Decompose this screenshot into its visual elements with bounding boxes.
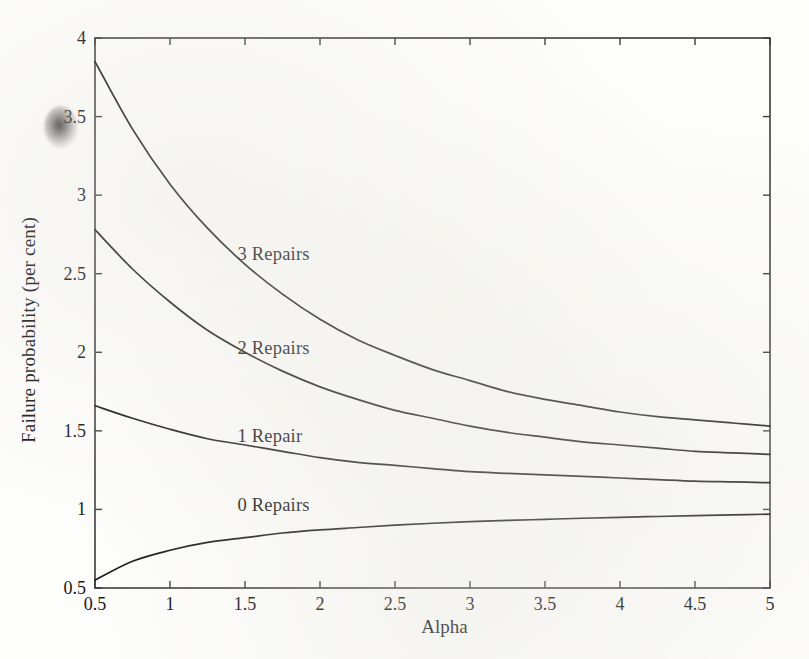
- axes-frame: [95, 38, 770, 588]
- curve-0-repairs: [95, 514, 770, 580]
- x-tick-label: 2: [316, 594, 325, 615]
- x-tick-label: 2.5: [384, 594, 407, 615]
- y-tick-label: 2.5: [64, 263, 87, 284]
- x-axis-label-wrap: Alpha: [0, 616, 809, 638]
- curve-label-2-repairs: 2 Repairs: [238, 338, 310, 359]
- x-axis-label: Alpha: [421, 616, 467, 637]
- x-tick-label: 4: [616, 594, 625, 615]
- axis-ticks: [95, 38, 770, 588]
- x-tick-label: 1: [166, 594, 175, 615]
- x-tick-label: 3: [466, 594, 475, 615]
- x-tick-label: 4.5: [684, 594, 707, 615]
- figure-canvas: Failure probability (per cent) Alpha 0.5…: [0, 0, 809, 659]
- x-tick-label: 3.5: [534, 594, 557, 615]
- plot-svg: [0, 0, 809, 659]
- data-curves: [95, 62, 770, 581]
- x-tick-label: 0.5: [84, 594, 107, 615]
- curve-label-1-repair: 1 Repair: [238, 426, 303, 447]
- y-tick-label: 1.5: [64, 420, 87, 441]
- axes-box: [95, 38, 770, 588]
- y-tick-label: 3.5: [64, 106, 87, 127]
- x-tick-label: 5: [766, 594, 775, 615]
- y-tick-label: 0.5: [64, 578, 87, 599]
- curve-3-repairs: [95, 62, 770, 427]
- y-tick-label: 1: [77, 499, 86, 520]
- curve-label-3-repairs: 3 Repairs: [238, 244, 310, 265]
- y-tick-label: 2: [77, 342, 86, 363]
- y-tick-label: 3: [77, 185, 86, 206]
- curve-2-repairs: [95, 230, 770, 455]
- x-tick-label: 1.5: [234, 594, 257, 615]
- y-tick-label: 4: [77, 28, 86, 49]
- curve-label-0-repairs: 0 Repairs: [238, 495, 310, 516]
